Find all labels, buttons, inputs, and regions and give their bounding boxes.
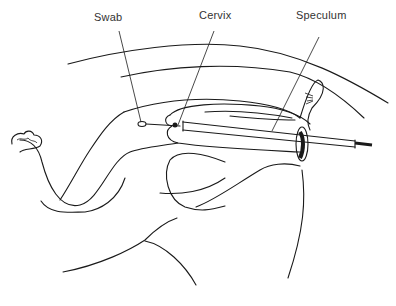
anatomy-drawing bbox=[0, 0, 396, 306]
leader-lines bbox=[119, 31, 319, 131]
ventral-line-1 bbox=[63, 218, 177, 272]
vulva-shadow bbox=[300, 132, 303, 158]
ventral-line-2 bbox=[145, 241, 196, 285]
diagram-canvas: Swab Cervix Speculum bbox=[0, 0, 396, 306]
uterus-body-line bbox=[60, 112, 124, 200]
back-contour-outer bbox=[68, 44, 388, 103]
speculum-leader bbox=[272, 37, 319, 131]
ventral-line-4 bbox=[288, 170, 304, 278]
anus-bulge bbox=[300, 80, 323, 130]
uterine-horn bbox=[20, 140, 178, 206]
speculum-tube bbox=[183, 121, 372, 148]
bladder bbox=[166, 153, 225, 210]
uterus-lower-curve bbox=[41, 178, 125, 212]
back-contour-middle bbox=[121, 66, 364, 118]
swab bbox=[138, 122, 180, 128]
vagina-lower-wall bbox=[166, 115, 300, 152]
vagina-upper-wall bbox=[170, 104, 310, 124]
